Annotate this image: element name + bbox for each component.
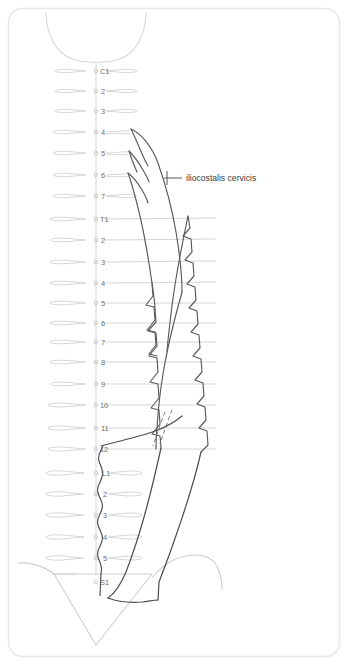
vertebra-label-T8: 8 (101, 358, 105, 367)
vertebra-label-T1: T1 (100, 215, 109, 224)
anatomy-diagram-svg: iliocostalis cervicis C1 2 3 4 5 6 7 T1 … (0, 0, 348, 665)
vertebra-label-T10: 10 (100, 401, 108, 410)
vertebra-label-L5: 5 (103, 554, 107, 563)
anatomy-figure-root: iliocostalis cervicis C1 2 3 4 5 6 7 T1 … (0, 0, 348, 665)
vertebra-label-L3: 3 (103, 511, 107, 520)
vertebra-label-L2: 2 (103, 490, 107, 499)
vertebra-label-L1: L1 (102, 469, 110, 478)
vertebra-label-C7: 7 (101, 192, 105, 201)
vertebra-label-L4: 4 (103, 533, 107, 542)
vertebra-label-T2: 2 (101, 236, 105, 245)
muscle-label-text: iliocostalis cervicis (186, 173, 256, 183)
vertebra-label-C4: 4 (101, 128, 105, 137)
vertebra-label-C3: 3 (101, 107, 105, 116)
vertebra-label-T12: 12 (100, 445, 108, 454)
vertebra-label-C2: 2 (101, 87, 105, 96)
vertebra-label-T9: 9 (101, 380, 105, 389)
vertebra-label-C1: C1 (100, 67, 109, 76)
vertebra-label-T3: 3 (101, 258, 105, 267)
vertebra-label-S1: S1 (100, 578, 109, 587)
vertebra-label-T4: 4 (101, 279, 105, 288)
vertebra-label-C6: 6 (101, 171, 105, 180)
vertebra-label-C5: 5 (101, 149, 105, 158)
vertebra-label-T7: 7 (101, 338, 105, 347)
vertebra-label-T11: 11 (101, 424, 109, 433)
vertebra-label-T6: 6 (101, 319, 105, 328)
vertebra-label-T5: 5 (101, 299, 105, 308)
